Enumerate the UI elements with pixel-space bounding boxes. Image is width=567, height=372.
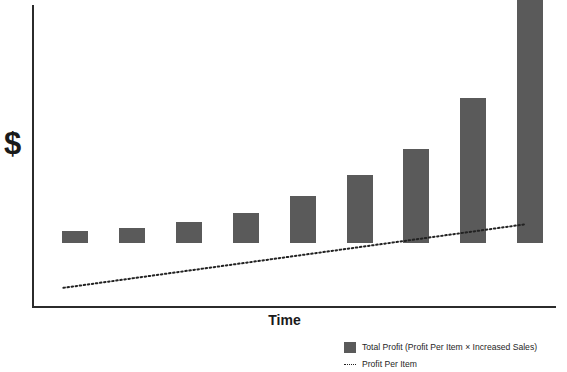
legend-swatch-icon <box>344 342 356 353</box>
legend-item-profit-per-item[interactable]: Profit Per Item <box>344 357 564 371</box>
y-axis-title: $ <box>4 128 21 159</box>
bar <box>290 196 316 243</box>
legend-dotted-line-icon <box>344 359 356 370</box>
chart-container: $ Time Total Profit (Profit Per Item × I… <box>0 0 567 372</box>
bar <box>403 149 429 243</box>
legend-item-label: Total Profit (Profit Per Item × Increase… <box>362 342 537 353</box>
bar <box>517 0 543 243</box>
bar <box>176 222 202 243</box>
bar-series-total-profit <box>0 0 567 308</box>
bar <box>119 228 145 243</box>
x-axis-title: Time <box>0 312 567 328</box>
bar <box>233 213 259 243</box>
bar <box>460 98 486 243</box>
chart-legend: Total Profit (Profit Per Item × Increase… <box>344 340 564 372</box>
bar <box>347 175 373 243</box>
bar <box>62 231 88 243</box>
plot-area <box>0 0 567 335</box>
legend-item-total-profit[interactable]: Total Profit (Profit Per Item × Increase… <box>344 340 564 354</box>
x-axis-title-text: Time <box>268 312 300 328</box>
legend-item-label: Profit Per Item <box>362 359 417 370</box>
